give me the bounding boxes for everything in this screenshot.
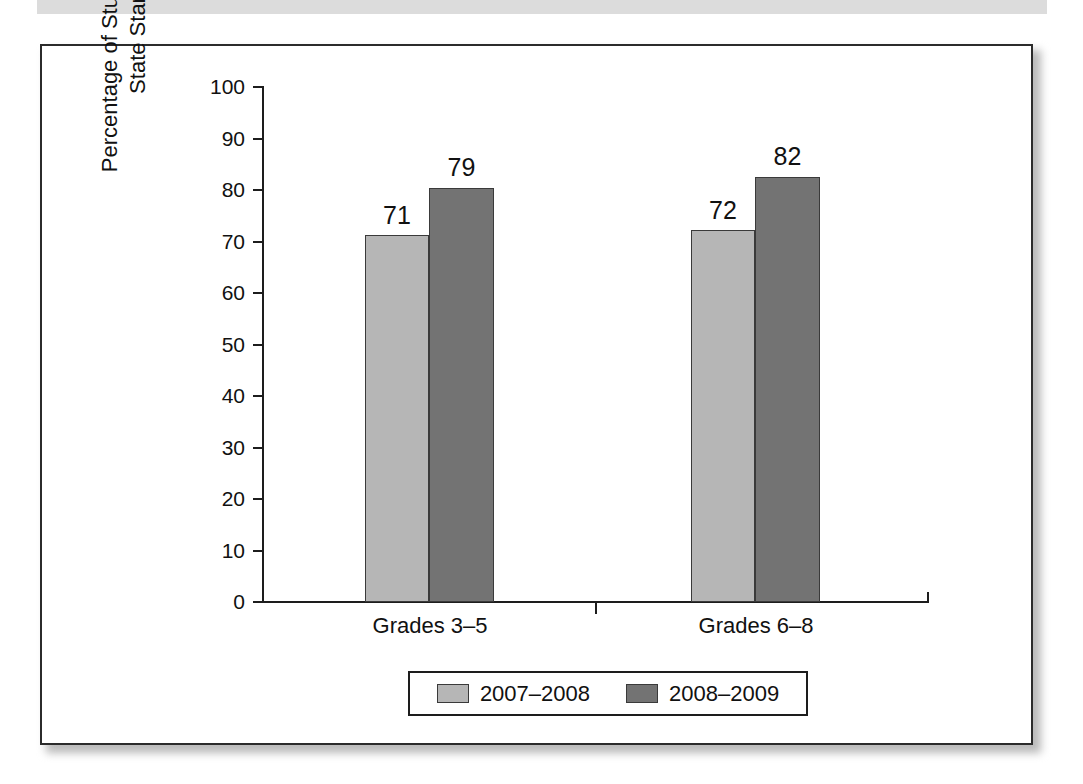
y-tick-100: 100 (0, 86, 263, 88)
y-tick-label-40: 40 (185, 385, 245, 406)
y-tick-30: 30 (0, 447, 263, 449)
y-tick-20: 20 (0, 498, 263, 500)
y-tick-10: 10 (0, 550, 263, 552)
y-axis-title: Percentage of Students Meeting State Sta… (96, 0, 151, 180)
y-tick-60: 60 (0, 292, 263, 294)
y-tick-90: 90 (0, 138, 263, 140)
y-tick-label-70: 70 (185, 231, 245, 252)
x-axis-end-tick (927, 592, 929, 603)
y-tick-label-30: 30 (185, 437, 245, 458)
y-tick-label-10: 10 (185, 540, 245, 561)
y-tick-label-20: 20 (185, 488, 245, 509)
bar-value-label-grades-3-5-2007-2008: 71 (365, 203, 429, 228)
legend-item-2007-2008: 2007–2008 (437, 683, 590, 705)
bar-value-label-grades-6-8-2008-2009: 82 (755, 144, 820, 169)
bar-grades-3-5-2007-2008 (365, 235, 429, 602)
y-tick-label-80: 80 (185, 179, 245, 200)
legend-swatch-icon-2007-2008 (437, 684, 469, 703)
y-tick-label-60: 60 (185, 282, 245, 303)
y-tick-label-90: 90 (185, 128, 245, 149)
legend-label-2007-2008: 2007–2008 (480, 683, 590, 705)
bar-grades-6-8-2007-2008 (691, 230, 755, 602)
x-axis-category-label-grades-6-8: Grades 6–8 (656, 615, 856, 637)
bar-value-label-grades-6-8-2007-2008: 72 (691, 198, 755, 223)
y-tick-label-100: 100 (185, 76, 245, 97)
y-tick-label-0: 0 (185, 591, 245, 612)
y-tick-80: 80 (0, 189, 263, 191)
bar-chart: Percentage of Students Meeting State Sta… (0, 0, 1083, 784)
x-axis-category-label-grades-3-5: Grades 3–5 (330, 615, 530, 637)
x-axis-group-separator-tick (595, 603, 597, 614)
bar-grades-3-5-2008-2009 (429, 188, 494, 602)
y-tick-50: 50 (0, 344, 263, 346)
bar-value-label-grades-3-5-2008-2009: 79 (429, 155, 494, 180)
y-tick-0: 0 (0, 601, 263, 603)
bar-grades-6-8-2008-2009 (755, 177, 820, 602)
chart-legend: 2007–2008 2008–2009 (408, 671, 808, 716)
legend-item-2008-2009: 2008–2009 (626, 683, 779, 705)
y-tick-70: 70 (0, 241, 263, 243)
y-tick-label-50: 50 (185, 334, 245, 355)
y-tick-40: 40 (0, 395, 263, 397)
legend-swatch-icon-2008-2009 (626, 684, 658, 703)
legend-label-2008-2009: 2008–2009 (669, 683, 779, 705)
